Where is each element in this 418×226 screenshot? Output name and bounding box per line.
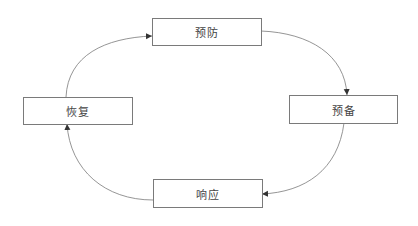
node-label: 预备 (332, 102, 356, 118)
arrow-prevention-to-preparedness (261, 31, 347, 95)
arrow-preparedness-to-response (262, 123, 344, 194)
node-response: 响应 (153, 179, 263, 208)
node-label: 预防 (195, 24, 219, 40)
node-label: 响应 (196, 186, 220, 202)
node-prevention: 预防 (152, 18, 262, 46)
arrow-response-to-recovery (67, 124, 153, 200)
arrow-recovery-to-prevention (66, 36, 152, 97)
node-recovery: 恢复 (23, 97, 133, 125)
node-label: 恢复 (66, 103, 90, 119)
node-preparedness: 预备 (289, 95, 398, 124)
